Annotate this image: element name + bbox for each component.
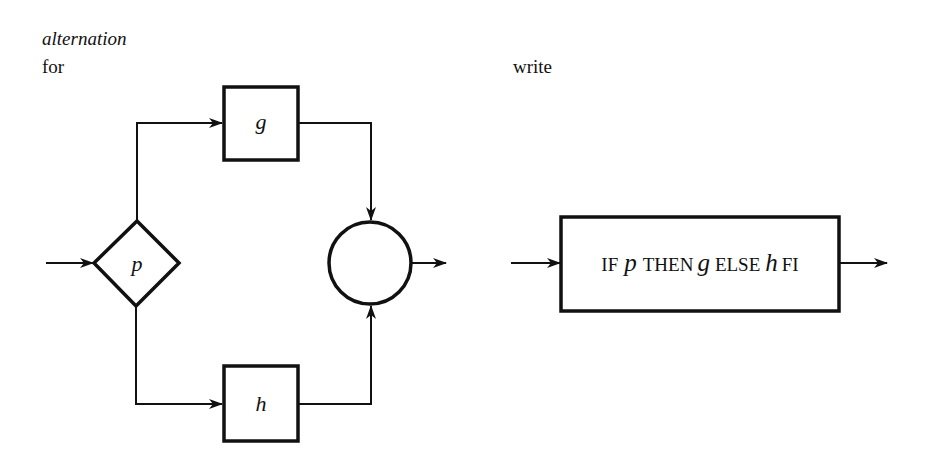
- statement-text: IFpTHENgELSEhFI: [601, 249, 798, 276]
- decision-label: p: [130, 251, 143, 276]
- then-node: g: [224, 87, 298, 160]
- join-node: [329, 222, 411, 304]
- then-to-join-arrow: [298, 123, 371, 220]
- decision-node: p: [94, 221, 179, 306]
- alternation-diagram: p g h IFpTHENgELSEhFI: [0, 0, 930, 465]
- else-label: h: [256, 391, 267, 416]
- else-node: h: [224, 366, 298, 441]
- equivalent-statement: IFpTHENgELSEhFI: [511, 217, 887, 311]
- else-to-join-arrow: [298, 306, 371, 404]
- then-arrow: [137, 123, 222, 221]
- then-label: g: [256, 109, 267, 134]
- flowchart: p g h: [46, 87, 446, 441]
- else-arrow: [136, 306, 222, 404]
